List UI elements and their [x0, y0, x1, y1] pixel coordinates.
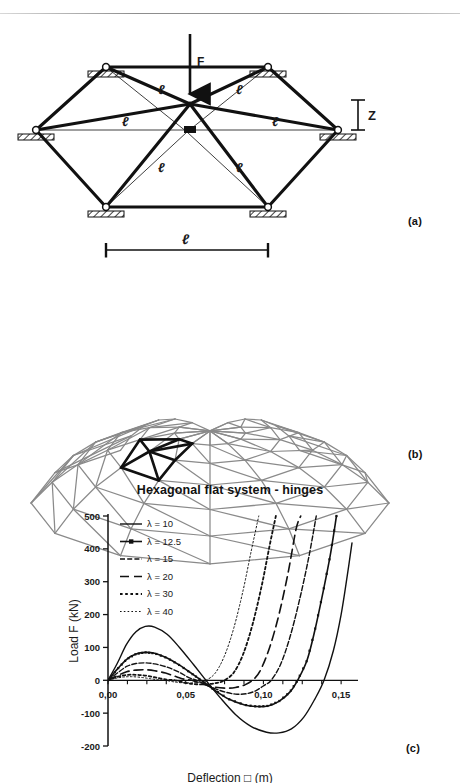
chart-series-marker	[138, 652, 140, 654]
chart-series-marker	[164, 656, 166, 658]
member-label-3: ℓ	[122, 114, 129, 129]
chart-title: Hexagonal flat system - hinges	[0, 483, 460, 497]
chart-series-marker	[217, 691, 219, 693]
chart-series-marker	[114, 671, 116, 673]
chart-series-marker	[245, 704, 247, 706]
chart-series-marker	[228, 698, 230, 700]
y-tick-label: 100	[84, 642, 100, 653]
chart-series-marker	[331, 544, 333, 546]
load-label: F	[197, 55, 204, 69]
y-tick-label: 200	[84, 609, 100, 620]
chart-series-marker	[290, 689, 292, 691]
chart-series-marker	[306, 660, 308, 662]
y-tick-label: -100	[81, 708, 100, 719]
centre-node	[184, 126, 196, 133]
y-tick-label: 300	[84, 576, 100, 587]
chart-series-marker	[333, 529, 335, 531]
chart-series-marker	[328, 558, 330, 560]
chart-series-marker	[308, 650, 310, 652]
chart-series-marker	[317, 614, 319, 616]
chart-series-marker	[314, 627, 316, 629]
chart-series-marker	[234, 700, 236, 702]
chart-series-marker	[160, 655, 162, 657]
figure-c-chart: -200-10001002003004005000,000,050,100,15…	[0, 500, 460, 783]
x-tick-label: 0,00	[99, 689, 118, 700]
truss-members	[36, 67, 338, 207]
chart-series-marker	[266, 705, 268, 707]
chart-series-marker	[134, 653, 136, 655]
chart-series-marker	[293, 685, 295, 687]
chart-axes: -200-10001002003004005000,000,050,100,15	[81, 511, 358, 752]
y-tick-label: 400	[84, 543, 100, 554]
legend-label: λ = 15	[147, 553, 173, 564]
y-tick-label: -200	[81, 741, 100, 752]
member-label-6: ℓ	[236, 160, 243, 175]
chart-series-marker	[282, 697, 284, 699]
legend-swatch-marker	[129, 539, 133, 543]
x-tick-label: 0,05	[176, 689, 195, 700]
chart-series-marker	[178, 664, 180, 666]
panel-label-b: (b)	[408, 448, 423, 460]
y-axis-title: Load F (kN)	[67, 599, 81, 662]
chart-series-marker	[295, 681, 297, 683]
chart-series-marker	[121, 663, 123, 665]
figure-b-dome	[10, 268, 410, 468]
load-deflection-chart: -200-10001002003004005000,000,050,100,15…	[0, 500, 460, 783]
chart-series-marker	[323, 587, 325, 589]
chart-series-marker	[286, 693, 288, 695]
member-label-5: ℓ	[158, 160, 165, 175]
legend-label: λ = 10	[147, 518, 173, 529]
chart-series-marker	[191, 673, 193, 675]
chart-series-marker	[155, 653, 157, 655]
chart-series-marker	[258, 705, 260, 707]
chart-series-marker	[335, 515, 337, 517]
x-tick-label: 0,10	[254, 689, 273, 700]
chart-series-marker	[151, 652, 153, 654]
truss-diagram-svg: F Z ℓ ℓ ℓ ℓ ℓ ℓ ℓ	[0, 22, 460, 267]
chart-series-marker	[148, 652, 150, 654]
chart-series-marker	[274, 702, 276, 704]
member-label-1: ℓ	[158, 82, 165, 97]
chart-series-group	[107, 515, 352, 733]
legend-label: λ = 12.5	[147, 536, 181, 547]
x-axis-title: Deflection □ (m)	[187, 771, 272, 783]
chart-series-marker	[270, 703, 272, 705]
chart-series-marker	[187, 670, 189, 672]
chart-series-marker	[141, 652, 143, 654]
z-label: Z	[368, 108, 376, 123]
chart-series-marker	[320, 601, 322, 603]
z-dimension	[351, 100, 365, 130]
page-top-rule	[0, 13, 460, 14]
truss-pin-nodes	[33, 64, 342, 211]
span-label: ℓ	[182, 231, 190, 247]
chart-series-marker	[302, 667, 304, 669]
chart-series-marker	[278, 700, 280, 702]
chart-series-marker	[195, 675, 197, 677]
chart-series-line	[108, 516, 336, 707]
chart-series-marker	[127, 657, 129, 659]
chart-series-marker	[311, 639, 313, 641]
chart-series-marker	[183, 667, 185, 669]
x-tick-label: 0,15	[332, 689, 351, 700]
chart-series-marker	[326, 573, 328, 575]
panel-label-a: (a)	[408, 215, 422, 227]
panel-label-c: (c)	[406, 742, 420, 754]
chart-series-marker	[249, 705, 251, 707]
legend-label: λ = 30	[147, 588, 173, 599]
legend-label: λ = 20	[147, 571, 173, 582]
chart-legend: λ = 10λ = 12.5λ = 15λ = 20λ = 30λ = 40	[120, 518, 181, 617]
dome-mesh-svg	[10, 268, 410, 468]
chart-series-marker	[124, 660, 126, 662]
member-label-2: ℓ	[236, 82, 243, 97]
figure-a-truss: F Z ℓ ℓ ℓ ℓ ℓ ℓ ℓ	[0, 22, 460, 267]
chart-series-marker	[262, 705, 264, 707]
y-tick-label: 500	[84, 511, 100, 522]
chart-series-marker	[169, 659, 171, 661]
chart-series-marker	[145, 651, 147, 653]
member-label-4: ℓ	[272, 114, 279, 129]
chart-series-line	[108, 543, 352, 733]
legend-label: λ = 40	[147, 606, 173, 617]
chart-series-marker	[240, 702, 242, 704]
apex-node	[187, 101, 192, 106]
chart-series-marker	[198, 678, 200, 680]
